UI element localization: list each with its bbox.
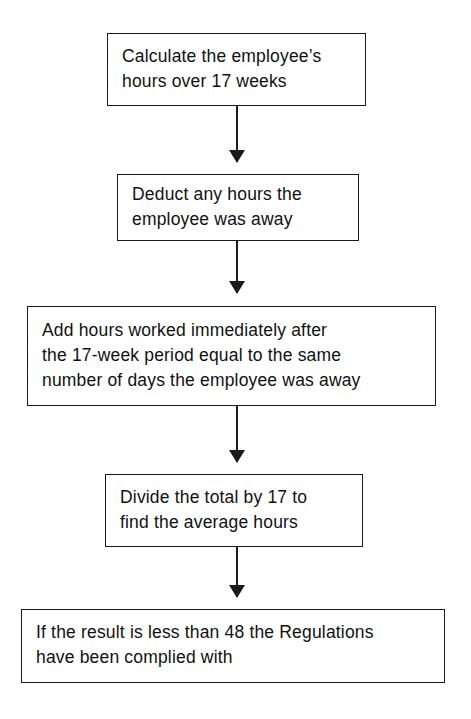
node-text-line: Deduct any hours the	[132, 182, 346, 207]
flowchart-connector-1	[236, 106, 238, 162]
flowchart-connector-3	[236, 406, 238, 462]
node-text-line: find the average hours	[120, 510, 350, 535]
flowchart-connector-2	[236, 241, 238, 293]
flowchart-node-calculate-hours: Calculate the employee’s hours over 17 w…	[107, 33, 366, 106]
flowchart-connector-4	[236, 547, 238, 597]
node-text-line: Calculate the employee’s	[122, 44, 353, 69]
flowchart-node-deduct-away-hours: Deduct any hours the employee was away	[117, 174, 359, 241]
flowchart-node-divide-total: Divide the total by 17 to find the avera…	[105, 474, 363, 547]
flowchart-node-result-compliance: If the result is less than 48 the Regula…	[21, 609, 445, 683]
node-text-line: hours over 17 weeks	[122, 69, 353, 94]
node-text-line: Divide the total by 17 to	[120, 485, 350, 510]
flowchart-node-add-hours-worked: Add hours worked immediately after the 1…	[27, 306, 436, 406]
node-text-line: employee was away	[132, 207, 346, 232]
arrowhead-down-icon	[229, 450, 245, 463]
arrowhead-down-icon	[229, 150, 245, 163]
node-text-line: number of days the employee was away	[42, 368, 423, 393]
node-text-line: If the result is less than 48 the Regula…	[36, 620, 432, 645]
flowchart-diagram: Calculate the employee’s hours over 17 w…	[0, 0, 471, 719]
node-text-line: have been complied with	[36, 645, 432, 670]
arrowhead-down-icon	[229, 585, 245, 598]
arrowhead-down-icon	[229, 281, 245, 294]
node-text-line: the 17-week period equal to the same	[42, 343, 423, 368]
node-text-line: Add hours worked immediately after	[42, 318, 423, 343]
